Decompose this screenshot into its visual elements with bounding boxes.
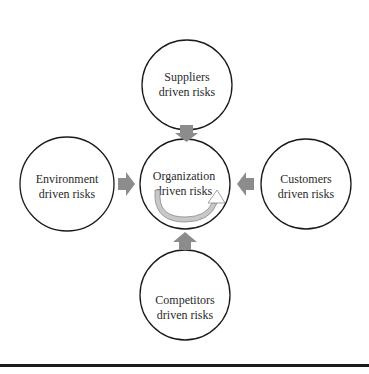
arrow-left-icon bbox=[237, 172, 254, 196]
node-left-label-2: driven risks bbox=[39, 187, 96, 201]
node-right-label-2: driven risks bbox=[278, 187, 335, 201]
node-top-label-2: driven risks bbox=[159, 85, 216, 99]
node-bottom: Competitors driven risks bbox=[140, 250, 230, 340]
node-right: Customers driven risks bbox=[261, 139, 351, 229]
node-center: Organization driven risks bbox=[140, 139, 230, 229]
node-top-label-1: Suppliers bbox=[164, 70, 210, 84]
node-center-label-2: driven risks bbox=[156, 184, 213, 198]
node-left: Environment driven risks bbox=[20, 137, 114, 231]
node-left-label-1: Environment bbox=[36, 172, 99, 186]
arrow-right-icon bbox=[118, 172, 135, 196]
node-bottom-label-1: Competitors bbox=[155, 293, 215, 307]
node-right-label-1: Customers bbox=[280, 172, 332, 186]
risk-diagram: Suppliers driven risks Environment drive… bbox=[0, 0, 369, 374]
node-bottom-label-2: driven risks bbox=[157, 308, 214, 322]
node-top: Suppliers driven risks bbox=[142, 40, 232, 130]
arrow-up-icon bbox=[173, 232, 197, 250]
bottom-rule bbox=[0, 364, 369, 367]
node-center-label-1: Organization bbox=[153, 169, 215, 183]
